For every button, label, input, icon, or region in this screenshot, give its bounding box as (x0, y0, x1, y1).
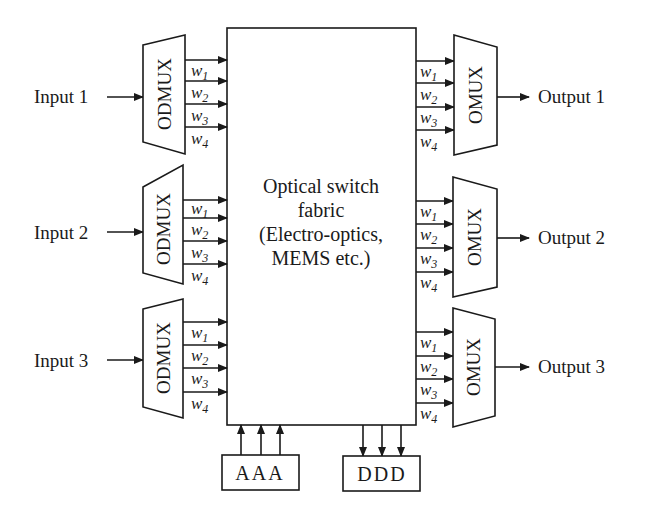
odmux-label-3: ODMUX (153, 322, 174, 394)
odmux-1-wavelength-labels: w1 w2 w3 w4 (191, 61, 208, 151)
svg-text:w1: w1 (191, 199, 208, 221)
svg-text:w1: w1 (420, 62, 437, 84)
input-label-2: Input 2 (34, 222, 88, 243)
svg-text:w3: w3 (191, 106, 208, 128)
switch-fabric-line-3: (Electro-optics, (259, 223, 383, 246)
svg-text:w4: w4 (191, 266, 208, 288)
svg-text:w3: w3 (191, 369, 208, 391)
switch-fabric-line-4: MEMS etc.) (272, 247, 371, 270)
optical-cross-connect-diagram: Optical switch fabric (Electro-optics, M… (0, 0, 649, 518)
add-block: AAA (222, 425, 299, 490)
input-label-1: Input 1 (34, 86, 88, 107)
svg-text:w1: w1 (191, 61, 208, 83)
svg-text:w3: w3 (420, 108, 437, 130)
svg-text:w4: w4 (191, 129, 208, 151)
output-label-1: Output 1 (538, 86, 605, 107)
switch-fabric-label: Optical switch fabric (Electro-optics, M… (259, 175, 383, 270)
input-channel-3: Input 3 ODMUX w1 w2 w3 w4 (34, 299, 227, 418)
switch-fabric-line-2: fabric (298, 199, 345, 221)
odmux-2-wavelength-labels: w1 w2 w3 w4 (191, 199, 208, 288)
omux-label-3: OMUX (463, 338, 484, 396)
drop-block: DDD (343, 425, 420, 491)
omux-label-1: OMUX (465, 66, 486, 124)
odmux-3-wavelength-labels: w1 w2 w3 w4 (191, 323, 208, 416)
svg-text:w2: w2 (420, 357, 437, 379)
add-label: AAA (235, 462, 284, 484)
svg-text:w4: w4 (420, 132, 437, 154)
drop-label: DDD (357, 463, 406, 485)
svg-text:w1: w1 (420, 202, 437, 224)
input-channel-2: Input 2 ODMUX w1 w2 w3 w4 (34, 165, 227, 288)
odmux-label-1: ODMUX (154, 58, 175, 130)
omux-label-2: OMUX (464, 208, 485, 266)
svg-text:w4: w4 (420, 273, 437, 295)
svg-text:w3: w3 (420, 249, 437, 271)
svg-text:w1: w1 (420, 333, 437, 355)
svg-text:w2: w2 (420, 85, 437, 107)
svg-text:w2: w2 (191, 346, 208, 368)
svg-text:w2: w2 (420, 225, 437, 247)
omux-1-wavelength-labels: w1 w2 w3 w4 (420, 62, 437, 154)
input-label-3: Input 3 (34, 350, 88, 371)
output-channel-1: w1 w2 w3 w4 OMUX Output 1 (416, 35, 605, 155)
svg-text:w3: w3 (191, 243, 208, 265)
svg-text:w4: w4 (420, 404, 437, 426)
output-label-3: Output 3 (538, 356, 605, 377)
output-label-2: Output 2 (538, 227, 605, 248)
odmux-label-2: ODMUX (153, 193, 174, 265)
input-channel-1: Input 1 ODMUX w1 w2 w3 w4 (34, 35, 227, 154)
svg-text:w3: w3 (420, 380, 437, 402)
output-channel-2: w1 w2 w3 w4 OMUX Output 2 (416, 177, 605, 297)
svg-text:w1: w1 (191, 323, 208, 345)
svg-text:w4: w4 (191, 394, 208, 416)
svg-text:w2: w2 (191, 83, 208, 105)
output-channel-3: w1 w2 w3 w4 OMUX Output 3 (416, 308, 605, 427)
switch-fabric-line-1: Optical switch (263, 175, 379, 198)
svg-text:w2: w2 (191, 220, 208, 242)
